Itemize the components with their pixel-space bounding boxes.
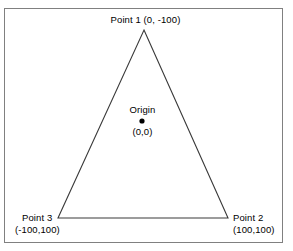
point3-label: Point 3 (-100,100) [15, 212, 60, 235]
diagram-canvas: Point 1 (0, -100) Origin (0,0) Point 3 (… [0, 0, 293, 251]
origin-coordinates-label: (0,0) [0, 126, 285, 138]
point2-label: Point 2 (100,100) [233, 212, 275, 235]
origin-label-text: Origin [130, 104, 156, 115]
point3-label-name: Point 3 [15, 212, 60, 224]
point3-label-coordinates: (-100,100) [15, 224, 60, 236]
origin-coordinates-text: (0,0) [132, 126, 152, 137]
origin-label: Origin [0, 104, 285, 116]
point1-label-text: Point 1 (0, -100) [111, 14, 181, 25]
point1-label: Point 1 (0, -100) [0, 14, 293, 26]
point2-label-name: Point 2 [233, 212, 275, 224]
point2-label-coordinates: (100,100) [233, 224, 275, 236]
